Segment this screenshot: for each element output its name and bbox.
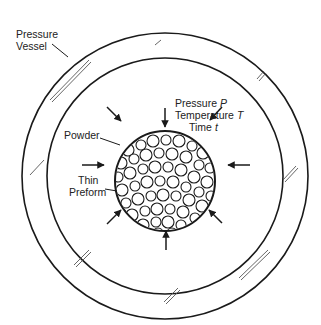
label-pressure: Pressure P <box>175 97 227 109</box>
label-pressure-vessel: Pressure Vessel <box>16 28 61 52</box>
label-time: Time t <box>189 121 219 133</box>
hip-diagram: Pressure Vessel Pressure P Temperature T… <box>0 0 321 325</box>
arrow-top-left <box>107 107 121 121</box>
pressure-arrows <box>82 107 250 250</box>
label-powder: Powder <box>64 129 100 141</box>
label-temperature: Temperature T <box>175 109 245 121</box>
vessel-hatch-marks <box>30 40 298 304</box>
arrow-bottom-left <box>107 210 121 224</box>
arrow-bottom-right <box>209 210 222 223</box>
pressure-vessel-outer-wall <box>22 33 308 319</box>
powder-particles <box>113 135 216 238</box>
label-thin-preform: Thin Preform <box>69 174 107 198</box>
